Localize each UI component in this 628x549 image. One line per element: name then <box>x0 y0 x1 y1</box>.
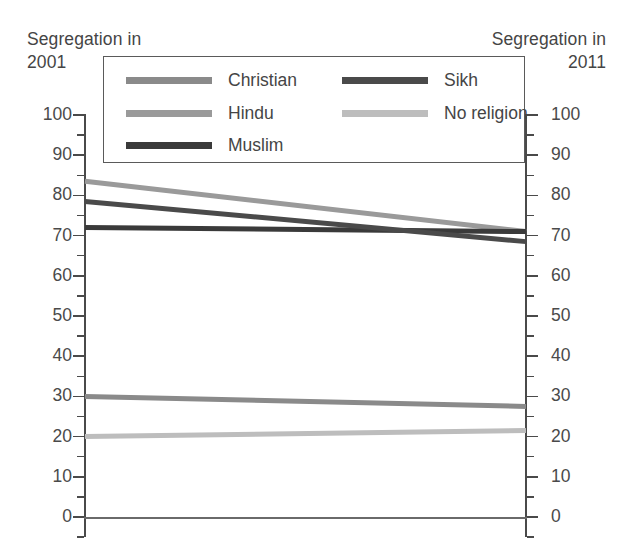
legend-item-sikh[interactable]: Sikh <box>342 69 478 91</box>
slope-chart: Segregation in 2001 Segregation in 2011 … <box>0 0 628 549</box>
legend-swatch-christian <box>126 77 212 84</box>
legend: Christian Hindu Muslim Sikh No religion <box>103 56 525 163</box>
legend-swatch-no-religion <box>342 110 428 117</box>
legend-item-hindu[interactable]: Hindu <box>126 102 274 124</box>
legend-label-no-religion: No religion <box>444 104 528 122</box>
series-line-no-religion <box>85 431 526 437</box>
series-line-muslim <box>85 228 526 232</box>
legend-swatch-muslim <box>126 142 212 149</box>
legend-swatch-sikh <box>342 77 428 84</box>
legend-item-christian[interactable]: Christian <box>126 69 297 91</box>
legend-label-sikh: Sikh <box>444 71 478 89</box>
legend-label-christian: Christian <box>228 71 297 89</box>
legend-label-hindu: Hindu <box>228 104 274 122</box>
series-line-christian <box>85 396 526 406</box>
legend-item-muslim[interactable]: Muslim <box>126 134 283 156</box>
legend-label-muslim: Muslim <box>228 136 283 154</box>
legend-swatch-hindu <box>126 110 212 117</box>
legend-item-no-religion[interactable]: No religion <box>342 102 528 124</box>
